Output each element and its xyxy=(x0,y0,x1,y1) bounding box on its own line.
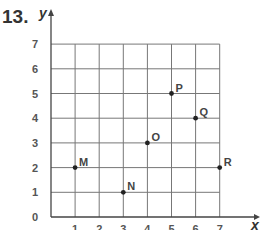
data-point-p xyxy=(169,91,174,96)
y-tick-label: 3 xyxy=(32,137,38,149)
point-label-m: M xyxy=(79,156,88,168)
x-tick-label: 4 xyxy=(144,223,151,230)
point-label-o: O xyxy=(151,131,160,143)
x-tick-label: 5 xyxy=(168,223,174,230)
x-tick-label: 7 xyxy=(217,223,223,230)
y-tick-label: 6 xyxy=(32,63,38,75)
data-point-o xyxy=(145,141,150,146)
data-point-q xyxy=(193,116,198,121)
y-axis-arrow-icon xyxy=(48,9,54,16)
point-label-q: Q xyxy=(200,106,209,118)
x-axis-label: x xyxy=(250,217,260,230)
y-tick-label: 7 xyxy=(32,38,38,50)
x-tick-label: 2 xyxy=(96,223,102,230)
y-axis-label: y xyxy=(38,5,48,21)
y-tick-label: 5 xyxy=(32,88,38,100)
y-tick-label: 4 xyxy=(32,112,39,124)
point-label-n: N xyxy=(127,180,135,192)
x-tick-label: 6 xyxy=(193,223,199,230)
y-tick-label: 0 xyxy=(32,211,38,223)
point-label-p: P xyxy=(176,82,183,94)
y-tick-label: 1 xyxy=(32,186,38,198)
data-point-n xyxy=(121,190,126,195)
coordinate-grid-chart: yx012345671234567MNOPQR xyxy=(0,0,264,230)
x-tick-label: 3 xyxy=(120,223,126,230)
data-point-m xyxy=(73,165,78,170)
data-point-r xyxy=(217,165,222,170)
point-label-r: R xyxy=(224,156,232,168)
x-tick-label: 1 xyxy=(72,223,78,230)
y-tick-label: 2 xyxy=(32,162,38,174)
